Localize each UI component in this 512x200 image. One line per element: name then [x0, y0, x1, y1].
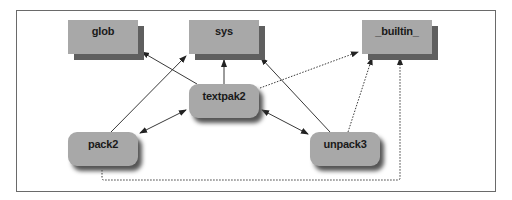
node-label: glob — [92, 25, 114, 37]
node-label: textpak2 — [202, 90, 245, 102]
node-label: sys — [215, 25, 233, 37]
edge-textpak2-builtin — [260, 52, 358, 88]
node-sys: sys — [189, 20, 259, 54]
node-glob: glob — [68, 20, 138, 54]
node-label: _builtin_ — [375, 25, 418, 37]
node-unpack3: unpack3 — [310, 132, 380, 166]
edge-textpak2-unpack3 — [262, 110, 308, 134]
node-textpak2: textpak2 — [189, 84, 259, 118]
node-builtin: _builtin_ — [362, 20, 432, 54]
edge-textpak2-glob — [142, 52, 197, 84]
node-label: pack2 — [88, 138, 118, 150]
edge-unpack3-sys — [261, 58, 330, 132]
edge-unpack3-builtin — [348, 58, 372, 132]
node-pack2: pack2 — [68, 132, 138, 166]
edge-pack2-textpak2 — [140, 110, 186, 133]
node-label: unpack3 — [323, 138, 366, 150]
edge-pack2-sys — [111, 56, 186, 132]
